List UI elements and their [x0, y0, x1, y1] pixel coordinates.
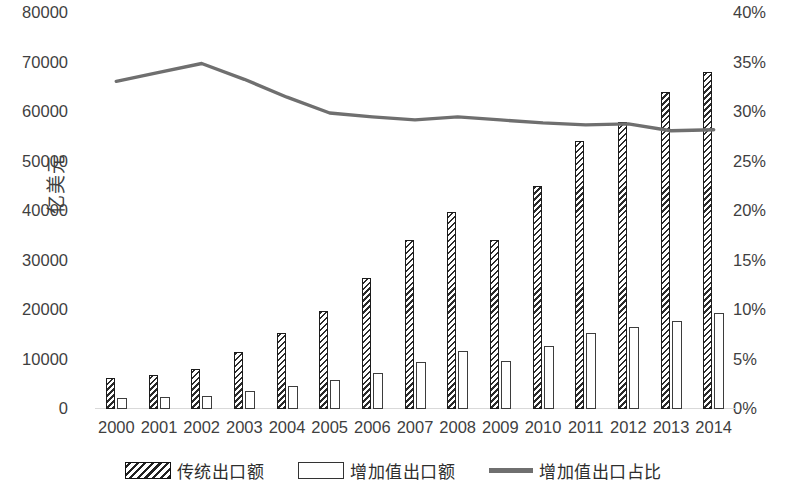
x-axis-tick-label: 2010	[521, 418, 565, 437]
x-axis-tick-label: 2003	[222, 418, 266, 437]
plot-area	[95, 13, 735, 409]
x-axis-tick-label: 2001	[137, 418, 181, 437]
y-axis-left-tick: 50000	[22, 153, 68, 170]
y-axis-title: 亿美元	[41, 124, 68, 244]
y-axis-left-tick: 70000	[22, 54, 68, 71]
x-axis-tick-label: 2005	[308, 418, 352, 437]
legend-item-value-added-share: 增加值出口占比	[489, 458, 662, 483]
legend-label-traditional-exports: 传统出口额	[177, 458, 265, 483]
chart-legend: 传统出口额 增加值出口额 增加值出口占比	[0, 458, 786, 483]
legend-label-value-added-share: 增加值出口占比	[539, 458, 662, 483]
x-axis-tick-label: 2011	[564, 418, 608, 437]
x-axis-tick-label: 2013	[649, 418, 693, 437]
y-axis-left-tick: 80000	[22, 4, 68, 21]
y-axis-left-tick: 40000	[22, 202, 68, 219]
line-series-svg	[95, 13, 735, 409]
x-axis-tick-label: 2002	[180, 418, 224, 437]
y-axis-left-tick: 20000	[22, 301, 68, 318]
x-axis-tick-label: 2000	[94, 418, 138, 437]
y-axis-left-tick: 60000	[22, 103, 68, 120]
y-axis-left-tick: 10000	[22, 351, 68, 368]
legend-item-traditional-exports: 传统出口额	[125, 458, 265, 483]
y-axis-left-tick: 0	[59, 400, 68, 417]
x-axis-tick-label: 2004	[265, 418, 309, 437]
chart-container: 亿美元 010000200003000040000500006000070000…	[0, 0, 786, 489]
x-axis-tick-label: 2014	[692, 418, 736, 437]
legend-label-value-added-exports: 增加值出口额	[350, 458, 455, 483]
x-axis-tick-label: 2007	[393, 418, 437, 437]
legend-item-value-added-exports: 增加值出口额	[298, 458, 455, 483]
line-swatch-icon	[489, 468, 533, 473]
x-axis-tick-label: 2009	[478, 418, 522, 437]
x-axis-tick-label: 2012	[606, 418, 650, 437]
hollow-bar-swatch-icon	[298, 462, 344, 479]
y-axis-left-tick: 30000	[22, 252, 68, 269]
x-axis-tick-label: 2006	[350, 418, 394, 437]
x-axis-tick-label: 2008	[436, 418, 480, 437]
hatched-bar-swatch-icon	[125, 462, 171, 479]
value-added-share-line	[116, 64, 713, 131]
